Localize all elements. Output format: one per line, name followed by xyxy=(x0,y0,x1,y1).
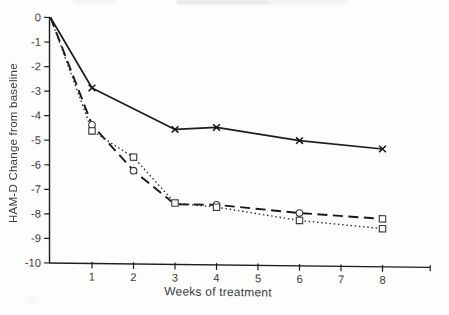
data-point-square-marker xyxy=(379,216,385,222)
x-axis-label: Weeks of treatment xyxy=(128,284,308,300)
data-point-square-marker xyxy=(130,154,136,160)
y-tick-label: -3 xyxy=(31,85,41,97)
ham-d-line-chart-figure: 0-1-2-3-4-5-6-7-8-9-1012345678 Weeks of … xyxy=(0,0,449,315)
x-tick-label: 3 xyxy=(172,271,178,283)
data-point-circle-marker xyxy=(130,167,137,174)
x-tick-label: 2 xyxy=(130,271,136,283)
series-dashed-circle-markers-line xyxy=(51,18,383,219)
y-tick-label: -5 xyxy=(31,134,41,146)
data-point-square-marker xyxy=(172,200,178,206)
y-tick-label: -4 xyxy=(31,109,41,121)
x-tick-label: 5 xyxy=(255,272,261,284)
data-point-square-marker xyxy=(213,204,219,210)
y-tick-label: -2 xyxy=(31,60,41,72)
data-point-circle-marker xyxy=(89,121,96,128)
y-tick-label: -9 xyxy=(31,232,41,244)
y-tick-label: -7 xyxy=(31,183,41,195)
series-solid-x-markers-line xyxy=(51,18,383,149)
x-tick-label: 8 xyxy=(379,274,385,286)
x-tick-label: 1 xyxy=(89,270,95,282)
data-point-circle-marker xyxy=(296,210,303,217)
series-dotted-square-markers-line xyxy=(51,18,383,229)
x-tick-label: 4 xyxy=(213,272,219,284)
y-tick-label: -6 xyxy=(31,158,41,170)
y-axis-label: HAM-D Change from baseline xyxy=(5,40,20,246)
x-tick-label: 7 xyxy=(338,273,344,285)
data-point-square-marker xyxy=(379,225,385,231)
y-tick-label: 0 xyxy=(35,11,41,23)
y-tick-label: -8 xyxy=(31,207,41,219)
data-point-square-marker xyxy=(89,128,95,134)
x-axis-line xyxy=(49,263,430,267)
y-tick-label: -10 xyxy=(25,257,41,269)
data-point-square-marker xyxy=(296,217,302,223)
plot-area-wrapper: 0-1-2-3-4-5-6-7-8-9-1012345678 Weeks of … xyxy=(0,0,449,315)
line-chart-canvas: 0-1-2-3-4-5-6-7-8-9-1012345678 xyxy=(0,0,449,315)
data-point-x-marker xyxy=(89,85,96,91)
y-tick-label: -1 xyxy=(31,36,41,48)
x-tick-label: 6 xyxy=(296,273,302,285)
